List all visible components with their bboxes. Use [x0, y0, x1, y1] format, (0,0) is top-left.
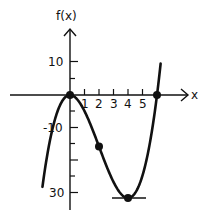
y-tick-label-neg30: 30: [49, 186, 64, 200]
x-tick-label-2: 2: [95, 97, 103, 111]
y-tick-label-10: 10: [48, 55, 63, 69]
x-axis-label: x: [191, 88, 198, 102]
y-axis-label: f(x): [56, 9, 77, 23]
x-tick-label-5: 5: [139, 97, 147, 111]
marked-point: [95, 143, 103, 151]
y-ticks: [70, 62, 78, 193]
function-graph: f(x) x 10 -10 30 1 2 3 4 5: [0, 0, 203, 213]
x-tick-label-4: 4: [124, 97, 132, 111]
x-tick-label-3: 3: [110, 97, 118, 111]
marked-point: [153, 91, 161, 99]
marked-point: [66, 91, 74, 99]
x-ticks: [85, 89, 143, 95]
marked-point: [124, 194, 132, 202]
